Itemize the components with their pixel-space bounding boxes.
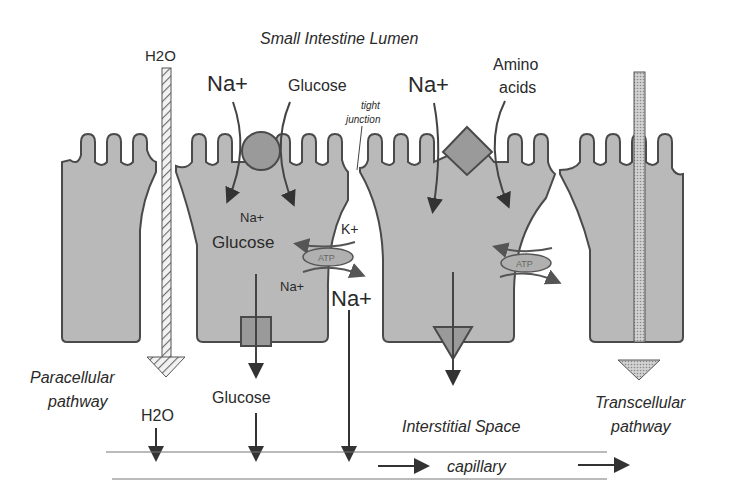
amino-label-2: acids: [499, 79, 536, 96]
capillary-label: capillary: [447, 458, 507, 475]
intestinal-absorption-diagram: Small Intestine Lumen H2O Na+ Glucose ti…: [0, 0, 747, 504]
cell-glucose-label: Glucose: [212, 233, 274, 252]
atp-left-label: ATP: [318, 253, 335, 263]
paracellular-label-2: pathway: [47, 393, 109, 410]
cell-na-bottom-label: Na+: [280, 279, 304, 294]
k-plus-label: K+: [341, 221, 359, 237]
glucose-bottom-label: Glucose: [212, 389, 271, 406]
transcellular-label-2: pathway: [610, 418, 672, 435]
epithelial-cell-4: [560, 134, 683, 342]
h2o-bottom-label: H2O: [141, 407, 174, 424]
interstitial-label: Interstitial Space: [402, 418, 520, 435]
tight-junction-label-1: tight: [361, 100, 381, 111]
na-right-label: Na+: [408, 72, 449, 97]
glucose-top-label: Glucose: [288, 77, 347, 94]
transcellular-label-1: Transcellular: [595, 394, 686, 411]
tight-junction-pointer: [357, 126, 362, 170]
atp-right-label: ATP: [516, 259, 533, 269]
lumen-title: Small Intestine Lumen: [260, 30, 418, 47]
paracellular-label-1: Paracellular: [30, 369, 115, 386]
sodium-glucose-cotransporter: [242, 132, 280, 170]
tight-junction-label-2: junction: [344, 114, 381, 125]
paracellular-arrow: [147, 68, 185, 377]
amino-label-1: Amino: [493, 56, 538, 73]
na-big-label: Na+: [331, 286, 372, 311]
epithelial-cell-1: [62, 134, 156, 342]
na-left-label: Na+: [207, 71, 248, 96]
cell-na-label: Na+: [240, 210, 264, 225]
h2o-top-label: H2O: [145, 47, 176, 64]
